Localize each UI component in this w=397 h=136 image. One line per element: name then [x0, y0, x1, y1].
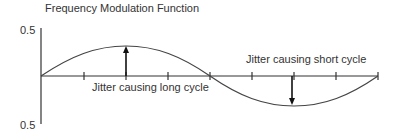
annotation-long-cycle: Jitter causing long cycle: [92, 81, 209, 93]
down-arrow-icon: [289, 76, 295, 105]
sine-wave-plot: [0, 0, 397, 136]
up-arrow-icon: [123, 46, 129, 76]
annotation-short-cycle: Jitter causing short cycle: [246, 53, 366, 65]
